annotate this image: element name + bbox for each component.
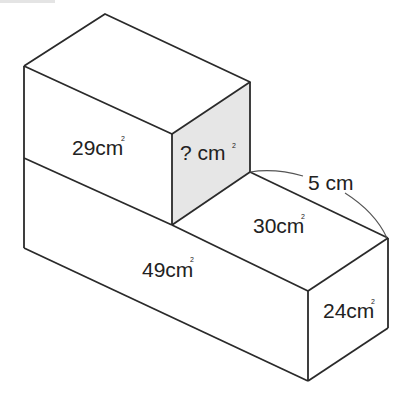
step-solid-diagram: 29cm 2 ? cm 2 5 cm 30cm 2 49cm 2 24cm 2 (0, 0, 401, 396)
label-bottom-front-area: 49cm (142, 258, 193, 281)
step-right-top-edge (308, 238, 388, 291)
dimension-arc-right (345, 193, 387, 238)
lower-bottom-right-edge (308, 328, 388, 381)
label-unknown-area: ? cm (180, 141, 226, 164)
label-step-top-area: 30cm (253, 214, 304, 237)
label-length: 5 cm (308, 171, 354, 194)
sup: 2 (121, 135, 125, 142)
sup: 2 (232, 142, 236, 149)
sup: 2 (190, 256, 194, 263)
sup: 2 (371, 298, 375, 305)
label-right-end-area: 24cm (323, 299, 374, 322)
sup: 2 (301, 213, 305, 220)
divider-line (24, 158, 172, 225)
label-top-front-area: 29cm (72, 136, 123, 159)
